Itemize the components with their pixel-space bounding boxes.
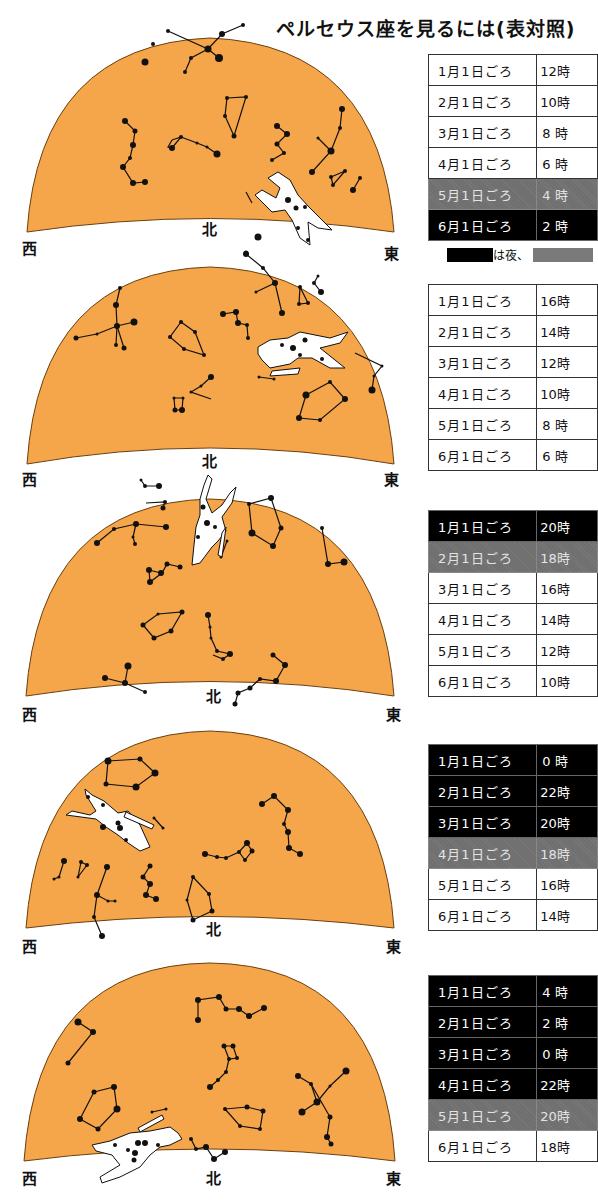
time-cell: 8 時 — [537, 117, 598, 148]
date-cell: 2月1日ごろ — [429, 1007, 537, 1038]
date-cell: 2月1日ごろ — [429, 316, 537, 347]
date-cell: 1月1日ごろ — [429, 55, 537, 86]
table-row: 1月1日ごろ4 時 — [429, 976, 598, 1007]
table-row: 3月1日ごろ12時 — [429, 347, 598, 378]
time-cell: 0 時 — [537, 745, 598, 776]
date-cell: 1月1日ごろ — [429, 285, 537, 316]
date-cell: 1月1日ごろ — [429, 511, 537, 542]
sky-dome-5 — [0, 955, 420, 1202]
table-row: 3月1日ごろ16時 — [429, 573, 598, 604]
table-row: 6月1日ごろ2 時 — [429, 210, 598, 241]
time-cell: 16時 — [537, 869, 598, 900]
table-row: 3月1日ごろ0 時 — [429, 1038, 598, 1069]
table-row: 6月1日ごろ10時 — [429, 666, 598, 697]
time-cell: 22時 — [537, 1069, 598, 1100]
table-row: 1月1日ごろ0 時 — [429, 745, 598, 776]
direction-north: 北 — [206, 1167, 221, 1188]
table-row: 5月1日ごろ20時 — [429, 1100, 598, 1131]
table-row: 2月1日ごろ14時 — [429, 316, 598, 347]
date-cell: 2月1日ごろ — [429, 776, 537, 807]
direction-west: 西 — [22, 935, 37, 956]
sky-panel-3: 西 北 東 1月1日ごろ20時2月1日ごろ18時3月1日ごろ16時4月1日ごろ1… — [0, 475, 589, 720]
table-row: 4月1日ごろ18時 — [429, 838, 598, 869]
date-cell: 3月1日ごろ — [429, 807, 537, 838]
time-cell: 10時 — [537, 666, 598, 697]
table-row: 6月1日ごろ6 時 — [429, 440, 598, 471]
time-cell: 10時 — [537, 86, 598, 117]
date-cell: 3月1日ごろ — [429, 1038, 537, 1069]
time-cell: 18時 — [537, 542, 598, 573]
table-row: 2月1日ごろ22時 — [429, 776, 598, 807]
rows: 1月1日ごろ12時2月1日ごろ10時3月1日ごろ8 時4月1日ごろ6 時5月1日… — [429, 55, 598, 241]
time-table-3: 1月1日ごろ20時2月1日ごろ18時3月1日ごろ16時4月1日ごろ14時5月1日… — [428, 510, 598, 697]
sky-panel-4: 西 北 東 1月1日ごろ0 時2月1日ごろ22時3月1日ごろ20時4月1日ごろ1… — [0, 715, 589, 960]
table-row: 1月1日ごろ16時 — [429, 285, 598, 316]
direction-north: 北 — [202, 218, 217, 239]
time-table-5: 1月1日ごろ4 時2月1日ごろ2 時3月1日ごろ0 時4月1日ごろ22時5月1日… — [428, 975, 598, 1162]
direction-west: 西 — [22, 1167, 37, 1188]
table-row: 5月1日ごろ4 時 — [429, 179, 598, 210]
date-cell: 4月1日ごろ — [429, 604, 537, 635]
date-cell: 3月1日ごろ — [429, 573, 537, 604]
time-cell: 20時 — [537, 1100, 598, 1131]
time-table-1: 1月1日ごろ12時2月1日ごろ10時3月1日ごろ8 時4月1日ごろ6 時5月1日… — [428, 54, 598, 241]
table-row: 3月1日ごろ20時 — [429, 807, 598, 838]
date-cell: 6月1日ごろ — [429, 210, 537, 241]
time-cell: 12時 — [537, 635, 598, 666]
time-cell: 18時 — [537, 1131, 598, 1162]
direction-east: 東 — [386, 935, 401, 956]
date-cell: 6月1日ごろ — [429, 440, 537, 471]
time-cell: 20時 — [537, 807, 598, 838]
time-cell: 12時 — [537, 347, 598, 378]
date-cell: 3月1日ごろ — [429, 347, 537, 378]
table-row: 5月1日ごろ8 時 — [429, 409, 598, 440]
table-row: 2月1日ごろ10時 — [429, 86, 598, 117]
direction-east: 東 — [386, 1167, 401, 1188]
table-row: 4月1日ごろ22時 — [429, 1069, 598, 1100]
table-row: 4月1日ごろ14時 — [429, 604, 598, 635]
time-cell: 4 時 — [537, 179, 598, 210]
table-row: 3月1日ごろ8 時 — [429, 117, 598, 148]
time-cell: 12時 — [537, 55, 598, 86]
date-cell: 1月1日ごろ — [429, 976, 537, 1007]
date-cell: 2月1日ごろ — [429, 542, 537, 573]
date-cell: 5月1日ごろ — [429, 179, 537, 210]
time-table-4: 1月1日ごろ0 時2月1日ごろ22時3月1日ごろ20時4月1日ごろ18時5月1日… — [428, 744, 598, 931]
table-row: 6月1日ごろ18時 — [429, 1131, 598, 1162]
date-cell: 1月1日ごろ — [429, 745, 537, 776]
direction-north: 北 — [202, 450, 217, 471]
date-cell: 5月1日ごろ — [429, 1100, 537, 1131]
date-cell: 6月1日ごろ — [429, 1131, 537, 1162]
date-cell: 4月1日ごろ — [429, 1069, 537, 1100]
date-cell: 5月1日ごろ — [429, 409, 537, 440]
table-row: 4月1日ごろ10時 — [429, 378, 598, 409]
date-cell: 3月1日ごろ — [429, 117, 537, 148]
sky-panel-1: 西 北 東 1月1日ごろ12時2月1日ごろ10時3月1日ごろ8 時4月1日ごろ6… — [0, 0, 589, 270]
time-cell: 10時 — [537, 378, 598, 409]
rows: 1月1日ごろ16時2月1日ごろ14時3月1日ごろ12時4月1日ごろ10時5月1日… — [429, 285, 598, 471]
time-cell: 2 時 — [537, 210, 598, 241]
sky-dome-2 — [0, 240, 420, 485]
table-row: 2月1日ごろ18時 — [429, 542, 598, 573]
direction-north: 北 — [206, 685, 221, 706]
rows: 1月1日ごろ20時2月1日ごろ18時3月1日ごろ16時4月1日ごろ14時5月1日… — [429, 511, 598, 697]
time-cell: 18時 — [537, 838, 598, 869]
time-cell: 22時 — [537, 776, 598, 807]
table-row: 4月1日ごろ6 時 — [429, 148, 598, 179]
time-cell: 6 時 — [537, 440, 598, 471]
date-cell: 5月1日ごろ — [429, 635, 537, 666]
date-cell: 5月1日ごろ — [429, 869, 537, 900]
time-cell: 14時 — [537, 604, 598, 635]
time-cell: 20時 — [537, 511, 598, 542]
table-row: 5月1日ごろ16時 — [429, 869, 598, 900]
time-cell: 0 時 — [537, 1038, 598, 1069]
time-cell: 14時 — [537, 316, 598, 347]
table-row: 5月1日ごろ12時 — [429, 635, 598, 666]
sky-panel-2: 西 北 東 1月1日ごろ16時2月1日ごろ14時3月1日ごろ12時4月1日ごろ1… — [0, 240, 589, 485]
date-cell: 6月1日ごろ — [429, 900, 537, 931]
time-cell: 8 時 — [537, 409, 598, 440]
date-cell: 4月1日ごろ — [429, 148, 537, 179]
table-row: 1月1日ごろ12時 — [429, 55, 598, 86]
time-cell: 14時 — [537, 900, 598, 931]
table-row: 2月1日ごろ2 時 — [429, 1007, 598, 1038]
